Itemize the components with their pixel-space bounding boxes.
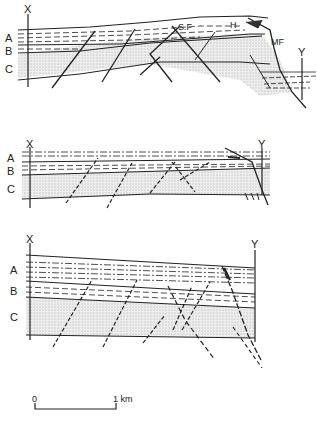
section-1-x-label: X [24,3,32,15]
section-2-layer-a: A [7,152,15,164]
section-1 [18,14,316,108]
section-1-layer-b: B [5,45,12,57]
section-1-y-label: Y [298,46,306,58]
scale-bar-start-label: 0 [32,394,37,404]
section-3 [26,243,262,368]
section-3-x-label: X [26,233,34,245]
section-1-layer-a: A [5,32,13,44]
section-3-layer-a: A [10,264,18,276]
scale-bar [35,403,116,409]
label-sf: S.F [178,22,193,32]
label-h: H [230,20,237,30]
section-3-layer-b: B [10,285,17,297]
section-2 [22,147,270,208]
layer-c-fill [18,34,292,96]
scale-bar-end-label: 1 km [113,394,133,404]
section-2-layer-b: B [7,165,14,177]
section-2-layer-c: C [7,183,15,195]
section-2-x-label: X [26,138,34,150]
label-mf: MF [271,37,284,47]
section-2-y-label: Y [258,138,266,150]
section-3-y-label: Y [251,238,259,250]
cross-section-diagram: X Y A B C S.F H MF X Y A B C [0,0,317,421]
section-1-layer-c: C [5,63,13,75]
section-3-layer-c: C [10,311,18,323]
